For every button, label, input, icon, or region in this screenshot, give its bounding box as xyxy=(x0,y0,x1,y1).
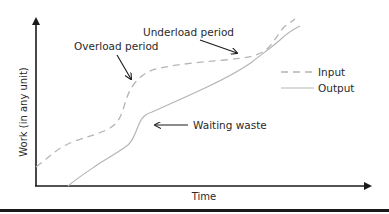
legend-input-label: Input xyxy=(318,66,345,78)
waiting-label: Waiting waste xyxy=(193,119,267,131)
underload-label: Underload period xyxy=(143,26,234,38)
y-axis-label: Work (in any unit) xyxy=(18,67,29,157)
overload-annotation: Overload period xyxy=(74,40,158,79)
legend: Input Output xyxy=(281,66,354,94)
underload-arrow-icon xyxy=(200,40,237,53)
overload-label: Overload period xyxy=(74,40,158,52)
diagram-canvas: Overload period Underload period Waiting… xyxy=(0,0,389,214)
overload-arrow-icon xyxy=(117,55,131,79)
legend-output-label: Output xyxy=(318,82,354,94)
x-axis-label: Time xyxy=(191,191,216,202)
bottom-rule xyxy=(0,209,389,212)
waiting-annotation: Waiting waste xyxy=(155,119,267,131)
